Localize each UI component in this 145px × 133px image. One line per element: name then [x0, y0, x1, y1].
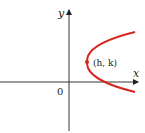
parabola-diagram: y x 0 (h, k): [0, 0, 145, 133]
y-axis-label: y: [57, 7, 65, 20]
origin-label: 0: [57, 86, 63, 97]
x-axis-label: x: [133, 67, 140, 80]
vertex-point: [85, 60, 89, 64]
vertex-label: (h, k): [93, 58, 117, 68]
